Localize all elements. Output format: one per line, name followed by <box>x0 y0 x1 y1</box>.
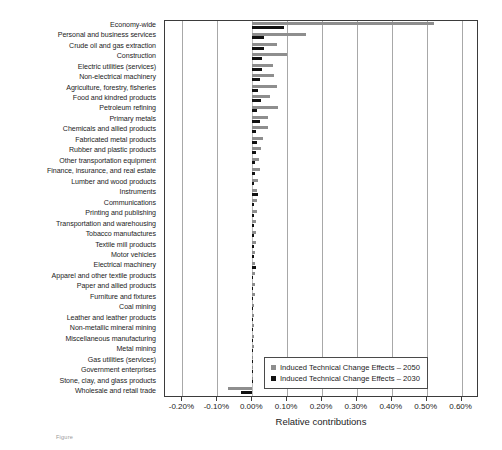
x-tick <box>181 397 182 401</box>
bar-2050 <box>252 324 254 327</box>
bar-2030 <box>241 391 252 394</box>
legend-label: Induced Technical Change Effects – 2030 <box>280 374 420 383</box>
bar-2050 <box>252 283 254 286</box>
bar-2030 <box>252 266 256 269</box>
bar-row <box>165 52 477 62</box>
bar-2050 <box>228 387 252 390</box>
category-label: Non-metallic mineral mining <box>0 324 160 334</box>
bar-2030 <box>252 57 262 60</box>
category-label: Wholesale and retail trade <box>0 386 160 396</box>
legend-entry: Induced Technical Change Effects – 2050 <box>271 362 420 373</box>
bar-row <box>165 282 477 292</box>
bar-row <box>165 334 477 344</box>
bar-2050 <box>252 116 268 119</box>
bar-row <box>165 198 477 208</box>
x-tick-label: 0.60% <box>449 402 472 411</box>
category-label: Gas utilities (services) <box>0 355 160 365</box>
bar-row <box>165 313 477 323</box>
bar-2030 <box>252 370 253 373</box>
x-axis-title: Relative contributions <box>164 416 478 427</box>
bar-row <box>165 21 477 31</box>
category-label: Tobacco manufactures <box>0 229 160 239</box>
bar-row <box>165 125 477 135</box>
bar-2030 <box>252 214 254 217</box>
bar-row <box>165 177 477 187</box>
bar-2030 <box>252 297 253 300</box>
x-tick <box>216 397 217 401</box>
category-label: Instruments <box>0 188 160 198</box>
bar-2050 <box>252 314 254 317</box>
legend-label: Induced Technical Change Effects – 2050 <box>280 363 420 372</box>
category-label: Metal mining <box>0 345 160 355</box>
bar-row <box>165 271 477 281</box>
bar-2050 <box>252 356 253 359</box>
chart-legend: Induced Technical Change Effects – 2050I… <box>264 357 428 389</box>
bar-2030 <box>252 255 253 258</box>
bar-2050 <box>252 137 262 140</box>
bar-2050 <box>252 220 256 223</box>
bar-row <box>165 209 477 219</box>
bar-2030 <box>252 26 284 29</box>
bar-row <box>165 219 477 229</box>
bar-2030 <box>252 245 253 248</box>
bar-2050 <box>252 22 434 25</box>
category-label: Chemicals and allied products <box>0 125 160 135</box>
bar-2030 <box>252 349 253 352</box>
bar-2030 <box>252 161 255 164</box>
x-tick-label: 0.50% <box>414 402 437 411</box>
bar-2050 <box>252 168 259 171</box>
bar-2050 <box>252 241 255 244</box>
bar-2050 <box>252 85 277 88</box>
category-label: Communications <box>0 198 160 208</box>
category-label: Miscellaneous manufacturing <box>0 334 160 344</box>
bar-2030 <box>252 182 254 185</box>
figure-container: Economy-widePersonal and business servic… <box>0 0 502 450</box>
bar-2050 <box>252 251 255 254</box>
category-label: Non-electrical machinery <box>0 72 160 82</box>
bar-2050 <box>252 95 269 98</box>
x-tick <box>321 397 322 401</box>
bar-2050 <box>252 189 257 192</box>
category-axis-labels: Economy-widePersonal and business servic… <box>0 20 160 397</box>
category-label: Other transportation equipment <box>0 156 160 166</box>
x-tick-label: 0.10% <box>275 402 298 411</box>
bar-2050 <box>252 293 254 296</box>
bar-2030 <box>252 193 258 196</box>
category-label: Fabricated metal products <box>0 135 160 145</box>
bar-2030 <box>252 203 254 206</box>
bar-2050 <box>252 272 255 275</box>
bar-2030 <box>252 234 253 237</box>
bar-2030 <box>252 68 262 71</box>
bar-row <box>165 136 477 146</box>
bar-2050 <box>252 147 261 150</box>
bar-2030 <box>252 380 253 383</box>
x-tick <box>356 397 357 401</box>
category-label: Printing and publishing <box>0 208 160 218</box>
bar-2030 <box>252 172 255 175</box>
category-label: Primary metals <box>0 114 160 124</box>
bar-row <box>165 250 477 260</box>
legend-swatch-icon <box>271 365 276 370</box>
category-label: Electrical machinery <box>0 261 160 271</box>
bar-row <box>165 167 477 177</box>
x-tick <box>461 397 462 401</box>
bar-2050 <box>252 43 277 46</box>
x-tick <box>286 397 287 401</box>
category-label: Motor vehicles <box>0 250 160 260</box>
x-tick-label: 0.00% <box>240 402 263 411</box>
bar-2030 <box>252 99 261 102</box>
bar-row <box>165 94 477 104</box>
figure-caption: Figure <box>56 434 73 440</box>
category-label: Economy-wide <box>0 20 160 30</box>
bar-2030 <box>252 276 253 279</box>
bar-2050 <box>252 53 287 56</box>
bar-2030 <box>252 151 255 154</box>
x-axis-tick-labels: -0.20%-0.10%0.00%0.10%0.20%0.30%0.40%0.5… <box>0 402 502 414</box>
bar-2030 <box>252 89 258 92</box>
category-label: Lumber and wood products <box>0 177 160 187</box>
bar-row <box>165 146 477 156</box>
category-label: Paper and allied products <box>0 282 160 292</box>
x-tick <box>391 397 392 401</box>
bar-2030 <box>252 47 264 50</box>
bar-row <box>165 84 477 94</box>
